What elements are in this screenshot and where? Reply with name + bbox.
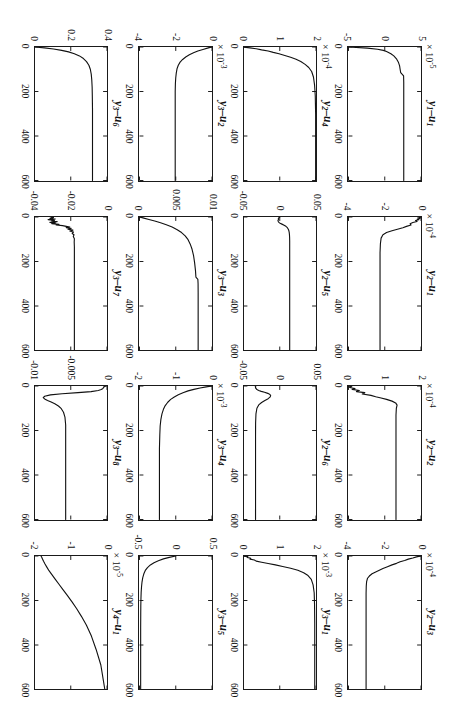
- axes-box: [348, 385, 423, 521]
- x-tick-label: 0: [125, 383, 135, 388]
- y-tick-label: 2: [417, 340, 427, 380]
- y-tick-label: 0: [343, 340, 353, 380]
- y-tick-label: 0: [275, 171, 285, 211]
- axes-box: [243, 46, 318, 182]
- plot-panel-y_4-u_1: y4–u1× 10-50200400600-2-10: [34, 555, 109, 691]
- x-tick-label: 0: [334, 44, 344, 49]
- x-tick-label: 400: [125, 129, 135, 143]
- y-tick-label: -4: [134, 1, 144, 41]
- y-tick-label: 0.005: [171, 171, 181, 211]
- x-tick-label: 200: [229, 423, 239, 437]
- axis-exponent-label: × 10-4: [424, 553, 437, 577]
- y-tick-label: 1: [275, 510, 285, 550]
- plot-panel-y_3-u_3: y3–u3020040060000.0050.01: [139, 216, 214, 352]
- data-line: [256, 386, 272, 520]
- x-tick-label: 200: [125, 423, 135, 437]
- plot-panel-y_2-u_1: y2–u1× 10-40200400600-4-20: [348, 216, 423, 352]
- x-tick-label: 200: [229, 593, 239, 607]
- y-tick-label: -0.05: [238, 340, 248, 380]
- axis-exponent-label: × 10-3: [215, 383, 228, 407]
- data-line: [42, 556, 106, 690]
- tick-marks: [349, 47, 422, 181]
- axes-box: [34, 216, 109, 352]
- plot-panel-y_2-u_2: y2–u2× 10-40200400600012: [348, 385, 423, 521]
- plot-panel-y_2-u_4: y2–u4× 10-40200400600012: [243, 46, 318, 182]
- x-tick-label: 200: [229, 84, 239, 98]
- data-line: [35, 47, 93, 181]
- y-tick-label: 5: [417, 1, 427, 41]
- x-tick-label: 0: [20, 44, 30, 49]
- axes-box: [34, 46, 109, 182]
- y-tick-label: 0.4: [104, 1, 114, 41]
- x-tick-label: 400: [334, 638, 344, 652]
- axis-exponent-label: × 10-4: [424, 383, 437, 407]
- y-tick-label: 0: [104, 510, 114, 550]
- y-tick-label: -0.04: [29, 171, 39, 211]
- y-tick-label: 0: [380, 1, 390, 41]
- tick-marks: [140, 217, 213, 351]
- y-tick-label: -0.5: [134, 510, 144, 550]
- y-tick-label: 0: [134, 171, 144, 211]
- tick-marks: [349, 556, 422, 690]
- y-tick-label: -4: [343, 510, 353, 550]
- y-tick-label: -2: [380, 510, 390, 550]
- x-tick-label: 400: [334, 129, 344, 143]
- axes-box: [34, 555, 109, 691]
- plot-panel-y_3-u_6: y3–u6020040060000.20.4: [34, 46, 109, 182]
- data-line: [244, 47, 316, 181]
- x-tick-label: 600: [20, 683, 30, 697]
- y-tick-label: 2: [313, 510, 323, 550]
- data-line: [349, 47, 404, 181]
- panel-title: y3–u7: [112, 216, 126, 352]
- tick-marks: [35, 386, 108, 520]
- rotated-figure-canvas: y1–u1× 10-50200400600-505y2–u1× 10-40200…: [0, 0, 452, 702]
- axes-box: [243, 555, 318, 691]
- y-tick-label: 1: [380, 340, 390, 380]
- x-tick-label: 400: [20, 129, 30, 143]
- x-tick-label: 200: [125, 84, 135, 98]
- tick-marks: [35, 217, 108, 351]
- y-tick-label: -2: [29, 510, 39, 550]
- panel-title: y2–u5: [321, 216, 335, 352]
- plot-panel-y_3-u_8: y3–u80200400600-0.01-0.0050: [34, 385, 109, 521]
- x-tick-label: 400: [20, 468, 30, 482]
- x-tick-label: 400: [125, 638, 135, 652]
- y-tick-label: 0.05: [313, 340, 323, 380]
- plot-panel-y_3-u_2: y3–u2× 10-30200400600-4-20: [139, 46, 214, 182]
- y-tick-label: -2: [380, 171, 390, 211]
- x-tick-label: 200: [20, 593, 30, 607]
- figure-page: y1–u1× 10-50200400600-505y2–u1× 10-40200…: [0, 0, 452, 702]
- y-tick-label: 0.5: [208, 510, 218, 550]
- y-tick-label: -0.005: [66, 340, 76, 380]
- plot-panel-y_3-u_4: y3–u4× 10-30200400600-2-10: [139, 385, 214, 521]
- y-tick-label: -1: [66, 510, 76, 550]
- x-tick-label: 0: [229, 383, 239, 388]
- x-tick-label: 400: [20, 638, 30, 652]
- data-line: [159, 386, 212, 520]
- x-tick-label: 400: [229, 299, 239, 313]
- x-tick-label: 0: [229, 213, 239, 218]
- axes-box: [348, 216, 423, 352]
- y-tick-label: -0.05: [238, 171, 248, 211]
- plot-panel-y_1-u_1: y1–u1× 10-50200400600-505: [348, 46, 423, 182]
- x-tick-label: 400: [229, 638, 239, 652]
- tick-marks: [349, 217, 422, 351]
- x-tick-label: 0: [20, 213, 30, 218]
- tick-marks: [35, 47, 108, 181]
- y-tick-label: 0: [208, 340, 218, 380]
- axis-exponent-label: × 10-4: [424, 214, 437, 238]
- y-tick-label: 0: [417, 171, 427, 211]
- y-tick-label: 0.2: [66, 1, 76, 41]
- data-line: [140, 217, 199, 351]
- x-tick-label: 0: [334, 552, 344, 557]
- axes-box: [34, 385, 109, 521]
- axes-box: [139, 46, 214, 182]
- plot-panel-y_2-u_6: y2–u60200400600-0.0500.05: [243, 385, 318, 521]
- axes-box: [243, 385, 318, 521]
- tick-marks: [140, 556, 213, 690]
- y-tick-label: 0: [275, 340, 285, 380]
- panel-grid: y1–u1× 10-50200400600-505y2–u1× 10-40200…: [0, 0, 452, 702]
- axes-box: [243, 216, 318, 352]
- x-tick-label: 200: [334, 593, 344, 607]
- data-line: [278, 217, 290, 351]
